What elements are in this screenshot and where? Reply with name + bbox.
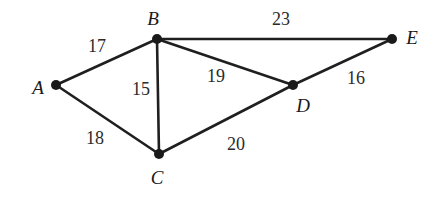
graph-node-c bbox=[154, 149, 164, 159]
edge-weight-a-b: 17 bbox=[88, 37, 106, 55]
edge-weight-b-d: 19 bbox=[207, 67, 225, 85]
graph-edge-d-e bbox=[293, 39, 392, 85]
edge-weight-b-e: 23 bbox=[272, 10, 290, 28]
node-label-d: D bbox=[296, 96, 310, 115]
node-label-c: C bbox=[151, 168, 164, 187]
edge-weight-a-c: 18 bbox=[86, 129, 104, 147]
graph-node-b bbox=[152, 34, 162, 44]
node-label-b: B bbox=[147, 9, 159, 28]
weighted-graph-figure: ABCDE 17181519232016 bbox=[0, 0, 434, 199]
graph-edge-b-c bbox=[157, 39, 159, 154]
graph-node-d bbox=[288, 80, 298, 90]
node-label-a: A bbox=[32, 78, 44, 97]
graph-node-e bbox=[387, 34, 397, 44]
edge-weight-b-c: 15 bbox=[132, 80, 150, 98]
graph-canvas bbox=[0, 0, 434, 199]
graph-node-a bbox=[51, 80, 61, 90]
graph-edge-c-d bbox=[159, 85, 293, 154]
graph-edge-b-d bbox=[157, 39, 293, 85]
edges-group bbox=[56, 39, 392, 154]
node-label-e: E bbox=[406, 28, 418, 47]
edge-weight-d-e: 16 bbox=[347, 69, 365, 87]
edge-weight-c-d: 20 bbox=[227, 135, 245, 153]
